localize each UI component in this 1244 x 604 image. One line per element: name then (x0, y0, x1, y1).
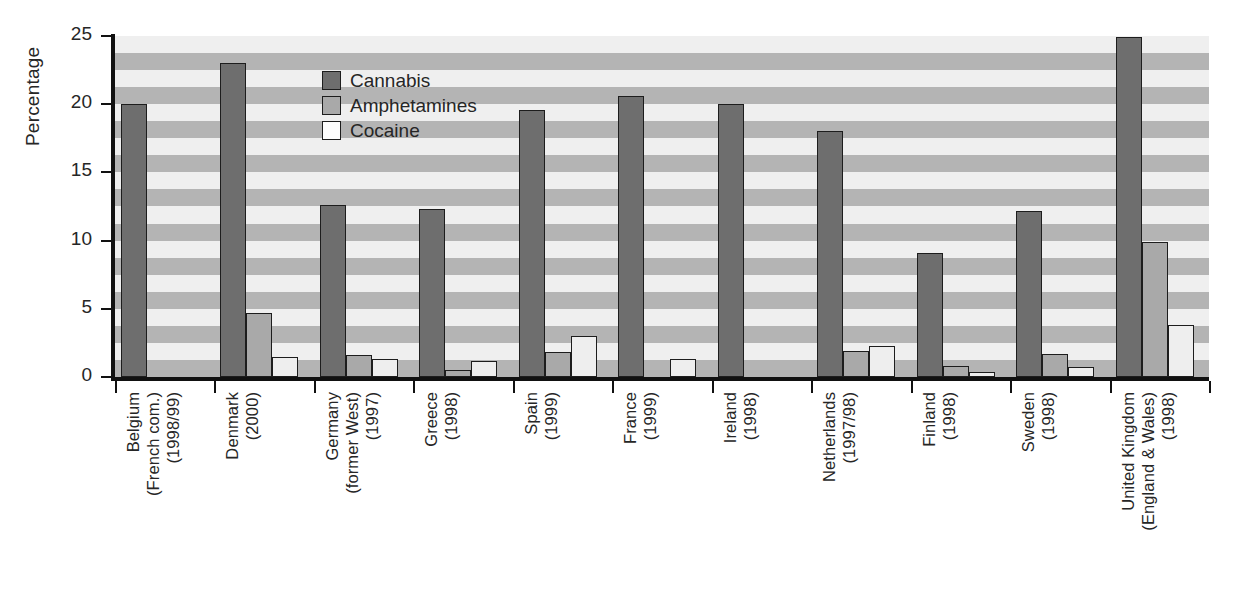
background-stripe (115, 224, 1209, 241)
y-axis-line (111, 34, 115, 379)
x-category-label-line: (1998) (740, 392, 760, 592)
bar-amphetamines (445, 370, 471, 377)
x-category-label-line: (1997/98) (839, 392, 859, 592)
legend-swatch-amphetamines (322, 96, 341, 115)
x-category-label: Finland(1998) (919, 392, 959, 592)
x-tick-mark (214, 381, 216, 393)
x-category-label: Ireland(1998) (720, 392, 760, 592)
bar-cannabis (718, 104, 744, 377)
legend-swatch-cannabis (322, 71, 341, 90)
bar-amphetamines (1142, 242, 1168, 377)
x-category-label: Denmark(2000) (222, 392, 262, 592)
bar-cannabis (419, 209, 445, 377)
x-category-label-line: (French com.) (143, 392, 163, 592)
legend-item-cocaine: Cocaine (322, 118, 552, 143)
legend-label: Amphetamines (350, 95, 477, 117)
x-category-label-line: (1997) (362, 392, 382, 592)
x-category-label-line: United Kingdom (1118, 392, 1138, 592)
bar-cocaine (272, 357, 298, 377)
x-category-label-line: Greece (421, 392, 441, 592)
chart-legend: CannabisAmphetaminesCocaine (322, 68, 552, 143)
x-category-label-line: Netherlands (819, 392, 839, 592)
x-tick-mark (1010, 381, 1012, 393)
x-tick-mark (115, 381, 117, 393)
legend-item-cannabis: Cannabis (322, 68, 552, 93)
background-stripe (115, 189, 1209, 206)
bar-chart-figure: Percentage 0510152025 Belgium(French com… (0, 0, 1244, 604)
bar-cannabis (817, 131, 843, 377)
legend-label: Cannabis (350, 70, 430, 92)
y-axis-title: Percentage (22, 0, 48, 146)
x-category-label-line: (1999) (541, 392, 561, 592)
y-tick-label: 10 (32, 228, 92, 250)
x-category-label-line: Finland (919, 392, 939, 592)
background-stripe (115, 326, 1209, 343)
x-category-label-line: (1998) (1158, 392, 1178, 592)
bar-amphetamines (246, 313, 272, 377)
legend-item-amphetamines: Amphetamines (322, 93, 552, 118)
background-stripe (115, 292, 1209, 309)
x-category-label: Spain(1999) (521, 392, 561, 592)
y-tick-label: 15 (32, 159, 92, 181)
bar-cannabis (618, 96, 644, 377)
bar-cannabis (1116, 37, 1142, 377)
x-tick-mark (712, 381, 714, 393)
bar-cocaine (869, 346, 895, 377)
x-category-label: France(1999) (620, 392, 660, 592)
x-tick-mark (612, 381, 614, 393)
x-category-label: Greece(1998) (421, 392, 461, 592)
x-category-label: Netherlands(1997/98) (819, 392, 859, 592)
bar-cannabis (220, 63, 246, 377)
x-category-label-line: Germany (322, 392, 342, 592)
x-category-label: United Kingdom(England & Wales)(1998) (1118, 392, 1178, 592)
x-category-label-line: Spain (521, 392, 541, 592)
bar-amphetamines (545, 352, 571, 377)
background-stripe (115, 155, 1209, 172)
x-category-label-line: (former West) (342, 392, 362, 592)
x-tick-mark (413, 381, 415, 393)
x-category-label-line: France (620, 392, 640, 592)
x-tick-mark (811, 381, 813, 393)
bar-cocaine (1068, 367, 1094, 377)
x-tick-mark (911, 381, 913, 393)
y-tick-label: 5 (32, 296, 92, 318)
x-category-label-line: (1999) (640, 392, 660, 592)
bar-amphetamines (943, 366, 969, 377)
bar-amphetamines (1042, 354, 1068, 377)
bar-cocaine (1168, 325, 1194, 377)
x-category-label-line: (2000) (242, 392, 262, 592)
legend-swatch-cocaine (322, 121, 341, 140)
x-category-label-line: Ireland (720, 392, 740, 592)
legend-label: Cocaine (350, 120, 420, 142)
bar-cannabis (1016, 211, 1042, 377)
x-category-label-line: (England & Wales) (1138, 392, 1158, 592)
bar-cannabis (917, 253, 943, 377)
bar-cocaine (670, 359, 696, 377)
bar-amphetamines (346, 355, 372, 377)
x-tick-mark (314, 381, 316, 393)
bar-cocaine (571, 336, 597, 377)
x-category-label-line: (1998) (939, 392, 959, 592)
x-category-label-line: Sweden (1018, 392, 1038, 592)
x-category-label-line: Belgium (123, 392, 143, 592)
x-category-label-line: (1998) (441, 392, 461, 592)
x-category-label-line: Denmark (222, 392, 242, 592)
background-stripe (115, 258, 1209, 275)
x-category-label: Germany(former West)(1997) (322, 392, 382, 592)
plot-area (115, 36, 1209, 377)
bar-amphetamines (843, 351, 869, 377)
x-tick-mark (513, 381, 515, 393)
x-category-label-line: (1998/99) (163, 392, 183, 592)
background-stripe (115, 53, 1209, 70)
bar-cannabis (519, 110, 545, 377)
bar-cocaine (471, 361, 497, 377)
x-category-label: Sweden(1998) (1018, 392, 1058, 592)
y-tick-label: 25 (32, 23, 92, 45)
x-category-label: Belgium(French com.)(1998/99) (123, 392, 183, 592)
bar-cannabis (320, 205, 346, 377)
x-tick-mark (1110, 381, 1112, 393)
x-category-label-line: (1998) (1038, 392, 1058, 592)
bar-cocaine (372, 359, 398, 377)
x-tick-mark (1209, 381, 1211, 393)
y-tick-label: 0 (32, 364, 92, 386)
